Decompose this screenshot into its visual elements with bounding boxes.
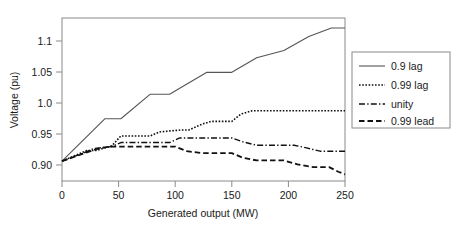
plot-frame [62,18,345,181]
x-tick-label-100: 100 [166,189,184,201]
x-tick-label-250: 250 [336,189,354,201]
series-line-0-99-lead [62,147,345,175]
x-axis-title: Generated output (MW) [148,207,258,219]
x-tick-label-50: 50 [113,189,125,201]
y-axis-title: Voltage (pu) [8,72,20,129]
series-line-0-9-lag [62,28,345,161]
series-group [62,28,345,174]
x-tick-label-200: 200 [280,189,298,201]
legend-label-unity: unity [391,98,414,110]
y-tick-label-5: 0.90 [32,159,53,171]
y-tick-label-4: 0.95 [32,128,53,140]
legend: 0.9 lag 0.99 lag unity 0.99 lead [352,52,450,128]
legend-label-0-99-lag: 0.99 lag [391,79,429,91]
series-line-unity [62,138,345,161]
y-axis-ticks [56,41,62,165]
y-tick-label-1: 1.1 [37,35,52,47]
x-tick-label-0: 0 [59,189,65,201]
legend-label-0-9-lag: 0.9 lag [391,60,423,72]
voltage-vs-output-chart: 1.1 1.05 1.0 0.95 0.90 0 50 100 150 200 … [0,0,454,231]
x-axis-ticks [62,181,345,187]
x-tick-label-150: 150 [223,189,241,201]
y-tick-label-3: 1.0 [37,97,52,109]
legend-label-0-99-lead: 0.99 lead [391,115,434,127]
y-tick-label-2: 1.05 [32,66,53,78]
